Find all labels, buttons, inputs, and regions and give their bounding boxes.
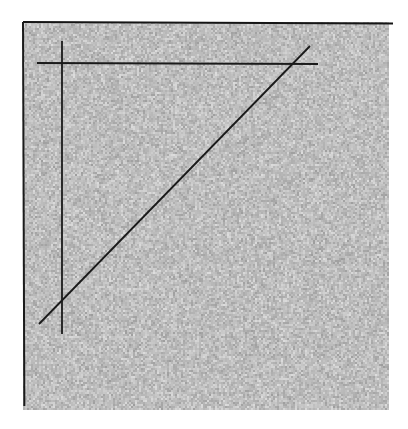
stroke-layer xyxy=(0,0,408,429)
horizontal-axis-line xyxy=(37,63,318,64)
diagonal-line xyxy=(39,46,310,324)
figure-root: Noisy grayscale field with overlaid stra… xyxy=(0,0,408,429)
